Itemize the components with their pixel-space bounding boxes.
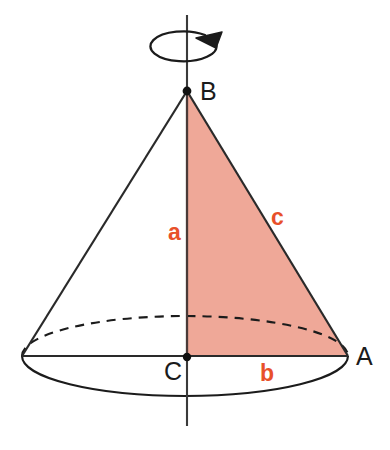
side-label-b: b (260, 362, 274, 385)
vertex-label-B: B (200, 79, 217, 104)
vertex-label-C: C (164, 359, 182, 384)
side-label-c: c (271, 206, 284, 229)
vertex-label-A: A (356, 344, 373, 369)
base-ellipse-front-arc (22, 356, 348, 396)
diagram-canvas: B A C a b c (0, 0, 390, 450)
cone-figure (0, 0, 390, 450)
vertex-dot-B (183, 87, 192, 96)
side-label-a: a (168, 221, 181, 244)
vertex-dot-C (183, 353, 191, 361)
